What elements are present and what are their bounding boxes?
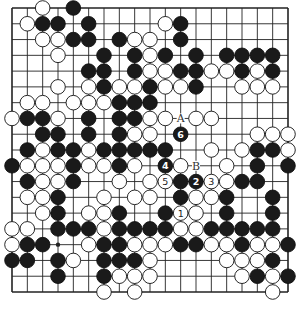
black-stone — [66, 1, 81, 16]
black-stone — [81, 127, 96, 142]
black-stone — [112, 95, 127, 110]
white-stone — [81, 158, 96, 173]
black-stone — [35, 237, 50, 252]
black-stone — [250, 48, 265, 63]
white-stone — [158, 111, 173, 126]
white-stone — [20, 95, 35, 110]
white-stone — [250, 80, 265, 95]
white-stone — [112, 80, 127, 95]
black-stone — [235, 64, 250, 79]
black-stone — [143, 80, 158, 95]
black-stone — [51, 222, 66, 237]
white-stone — [265, 127, 280, 142]
white-stone — [158, 237, 173, 252]
white-stone — [235, 253, 250, 268]
black-stone — [66, 158, 81, 173]
black-stone — [127, 143, 142, 158]
move-number-6: 6 — [177, 129, 184, 140]
black-stone — [127, 64, 142, 79]
white-stone — [20, 158, 35, 173]
white-stone — [281, 127, 296, 142]
white-stone — [35, 174, 50, 189]
white-stone — [51, 174, 66, 189]
black-stone — [97, 237, 112, 252]
black-stone — [35, 111, 50, 126]
black-stone — [66, 174, 81, 189]
black-stone — [112, 32, 127, 47]
white-stone — [250, 237, 265, 252]
black-stone — [97, 253, 112, 268]
black-stone — [97, 64, 112, 79]
black-stone — [127, 111, 142, 126]
white-stone — [158, 64, 173, 79]
black-stone — [189, 64, 204, 79]
go-board: AB123456 — [0, 0, 303, 310]
white-stone — [81, 95, 96, 110]
white-stone — [250, 64, 265, 79]
black-stone — [51, 206, 66, 221]
black-stone — [35, 16, 50, 31]
black-stone — [250, 143, 265, 158]
black-stone — [281, 237, 296, 252]
white-stone — [35, 95, 50, 110]
white-stone — [66, 95, 81, 110]
white-stone — [250, 127, 265, 142]
black-stone — [20, 143, 35, 158]
black-stone — [20, 111, 35, 126]
white-stone — [265, 285, 280, 300]
black-stone — [158, 222, 173, 237]
white-stone — [20, 190, 35, 205]
white-stone — [158, 16, 173, 31]
white-stone — [204, 64, 219, 79]
move-number-4: 4 — [162, 160, 169, 171]
white-stone — [127, 269, 142, 284]
white-stone — [97, 95, 112, 110]
white-stone — [35, 32, 50, 47]
white-stone — [173, 80, 188, 95]
white-stone — [189, 222, 204, 237]
black-stone — [265, 48, 280, 63]
black-stone — [143, 143, 158, 158]
white-stone — [35, 158, 50, 173]
point-label-b: B — [192, 160, 200, 173]
white-stone — [35, 206, 50, 221]
black-stone — [158, 143, 173, 158]
black-stone — [158, 206, 173, 221]
white-stone — [81, 143, 96, 158]
white-stone — [219, 64, 234, 79]
white-stone — [97, 206, 112, 221]
white-stone — [189, 206, 204, 221]
star-point — [56, 242, 60, 246]
black-stone — [66, 143, 81, 158]
white-stone — [219, 174, 234, 189]
black-stone — [81, 111, 96, 126]
black-stone — [112, 206, 127, 221]
black-stone — [219, 206, 234, 221]
white-stone — [81, 237, 96, 252]
white-stone — [127, 80, 142, 95]
point-label-a: A — [176, 112, 186, 125]
black-stone — [66, 222, 81, 237]
white-stone — [112, 174, 127, 189]
white-stone — [51, 111, 66, 126]
black-stone — [250, 174, 265, 189]
black-stone — [51, 253, 66, 268]
white-stone — [127, 190, 142, 205]
white-stone — [143, 127, 158, 142]
black-stone — [173, 16, 188, 31]
white-stone — [81, 80, 96, 95]
black-stone — [250, 222, 265, 237]
black-stone — [5, 253, 20, 268]
white-stone — [204, 111, 219, 126]
white-stone — [35, 143, 50, 158]
move-number-1: 1 — [178, 208, 184, 219]
black-stone — [281, 269, 296, 284]
black-stone — [219, 222, 234, 237]
white-stone — [51, 32, 66, 47]
white-stone — [235, 269, 250, 284]
white-stone — [97, 190, 112, 205]
white-stone — [127, 237, 142, 252]
white-stone — [265, 80, 280, 95]
black-stone — [51, 190, 66, 205]
black-stone — [81, 64, 96, 79]
